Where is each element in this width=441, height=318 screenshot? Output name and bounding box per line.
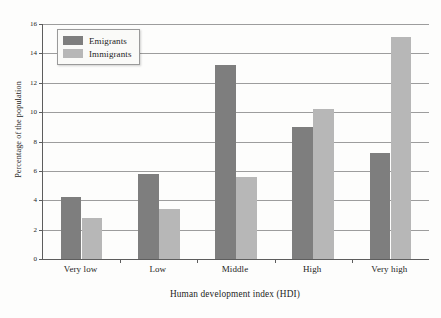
bar-immigrants-very-high (391, 37, 412, 259)
y-tick-label: 10 (30, 108, 37, 116)
bar-emigrants-low (138, 174, 159, 259)
y-tick-label: 0 (34, 255, 38, 263)
bar-immigrants-low (159, 209, 180, 259)
y-tick-label: 2 (34, 226, 38, 234)
y-tick-label: 16 (30, 20, 37, 28)
y-tick-label: 14 (30, 49, 37, 57)
x-tick-mark (197, 259, 198, 263)
x-tick-label-middle: Middle (222, 264, 249, 274)
y-axis-title: Percentage of the population (6, 0, 30, 259)
bar-emigrants-high (292, 127, 313, 259)
legend-item-emigrants: Emigrants (63, 34, 132, 47)
legend-item-immigrants: Immigrants (63, 47, 132, 60)
y-tick-label: 12 (30, 79, 37, 87)
bar-emigrants-very-high (370, 153, 391, 259)
chart-legend: Emigrants Immigrants (57, 29, 140, 65)
x-tick-label-low: Low (149, 264, 166, 274)
legend-swatch-emigrants (63, 36, 83, 45)
x-tick-mark (352, 259, 353, 263)
bar-immigrants-high (313, 109, 334, 259)
bar-immigrants-middle (236, 177, 257, 259)
y-tick-label: 6 (34, 167, 38, 175)
x-tick-mark (120, 259, 121, 263)
y-tick-label: 8 (34, 138, 38, 146)
y-axis-title-text: Percentage of the population (14, 81, 23, 178)
bar-emigrants-very-low (61, 197, 82, 259)
x-tick-mark (275, 259, 276, 263)
legend-swatch-immigrants (63, 49, 83, 58)
legend-label-immigrants: Immigrants (89, 49, 132, 59)
y-tick-label: 4 (34, 196, 38, 204)
x-tick-label-high: High (303, 264, 321, 274)
bar-emigrants-middle (215, 65, 236, 259)
legend-label-emigrants: Emigrants (89, 36, 127, 46)
x-tick-label-very-high: Very high (371, 264, 407, 274)
y-tick-mark (39, 259, 43, 260)
bar-chart-figure: Percentage of the population 02468101214… (0, 0, 441, 318)
bar-immigrants-very-low (82, 218, 103, 259)
x-axis-title: Human development index (HDI) (42, 289, 428, 299)
x-tick-label-very-low: Very low (64, 264, 98, 274)
